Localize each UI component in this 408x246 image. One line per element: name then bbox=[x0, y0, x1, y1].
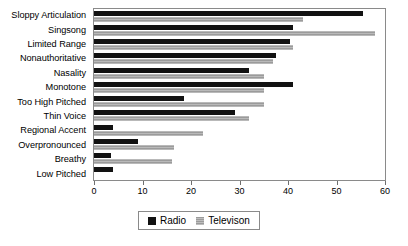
bar-radio bbox=[94, 110, 235, 115]
legend-label-television: Televison bbox=[208, 215, 250, 226]
x-tick-label: 30 bbox=[234, 186, 244, 196]
category-axis-labels: Sloppy Articulation Singsong Limited Ran… bbox=[0, 8, 89, 181]
category-label: Monotone bbox=[46, 82, 89, 92]
bar-television bbox=[94, 88, 264, 93]
category-label: Thin Voice bbox=[44, 111, 89, 121]
x-tick-mark bbox=[337, 181, 338, 185]
bar-television bbox=[94, 116, 249, 121]
x-tick-label: 10 bbox=[137, 186, 147, 196]
bar-group bbox=[94, 139, 385, 151]
bar-chart: Sloppy Articulation Singsong Limited Ran… bbox=[0, 0, 408, 246]
bar-group bbox=[94, 39, 385, 51]
bar-television bbox=[94, 159, 172, 164]
legend: Radio Televison bbox=[138, 211, 260, 230]
category-label: Regional Accent bbox=[20, 125, 89, 135]
bar-radio bbox=[94, 139, 138, 144]
category-label: Sloppy Articulation bbox=[11, 10, 89, 20]
plot-area bbox=[93, 8, 386, 181]
x-tick-mark bbox=[94, 181, 95, 185]
bar-radio bbox=[94, 82, 293, 87]
category-label: Limited Range bbox=[27, 39, 89, 49]
bar-radio bbox=[94, 39, 290, 44]
legend-label-radio: Radio bbox=[160, 215, 186, 226]
bar-radio bbox=[94, 153, 111, 158]
bar-television bbox=[94, 17, 303, 22]
bar-television bbox=[94, 102, 264, 107]
category-label: Too High Pitched bbox=[17, 97, 89, 107]
bar-group bbox=[94, 67, 385, 79]
bar-group bbox=[94, 153, 385, 165]
x-tick-mark bbox=[191, 181, 192, 185]
bar-television bbox=[94, 59, 273, 64]
x-tick-mark bbox=[143, 181, 144, 185]
x-tick-label: 0 bbox=[91, 186, 96, 196]
bar-television bbox=[94, 131, 203, 136]
bar-radio bbox=[94, 125, 113, 130]
bar-rows bbox=[94, 9, 385, 180]
x-tick-label: 60 bbox=[380, 186, 390, 196]
legend-swatch-television-icon bbox=[196, 217, 204, 225]
x-tick-label: 50 bbox=[331, 186, 341, 196]
x-tick-mark bbox=[288, 181, 289, 185]
bar-radio bbox=[94, 68, 249, 73]
legend-item-television: Televison bbox=[196, 215, 250, 226]
bar-radio bbox=[94, 25, 293, 30]
bar-group bbox=[94, 53, 385, 65]
bar-radio bbox=[94, 96, 184, 101]
x-tick-label: 20 bbox=[186, 186, 196, 196]
bar-television bbox=[94, 45, 293, 50]
x-tick-mark bbox=[385, 181, 386, 185]
bar-group bbox=[94, 110, 385, 122]
bar-television bbox=[94, 31, 375, 36]
category-label: Breathy bbox=[55, 154, 89, 164]
bar-group bbox=[94, 10, 385, 22]
x-axis: 0102030405060 bbox=[93, 181, 386, 199]
bar-radio bbox=[94, 167, 113, 172]
category-label: Nasality bbox=[54, 68, 89, 78]
bar-television bbox=[94, 145, 174, 150]
bar-group bbox=[94, 167, 385, 179]
category-label: Low Pitched bbox=[36, 169, 89, 179]
bar-group bbox=[94, 96, 385, 108]
bar-group bbox=[94, 25, 385, 37]
bar-radio bbox=[94, 11, 363, 16]
bar-group bbox=[94, 124, 385, 136]
category-label: Singsong bbox=[48, 25, 89, 35]
category-label: Nonauthoritative bbox=[20, 53, 89, 63]
category-label: Overpronounced bbox=[18, 140, 89, 150]
legend-item-radio: Radio bbox=[148, 215, 186, 226]
bar-radio bbox=[94, 53, 276, 58]
bar-television bbox=[94, 74, 264, 79]
x-tick-mark bbox=[240, 181, 241, 185]
x-tick-label: 40 bbox=[283, 186, 293, 196]
legend-swatch-radio-icon bbox=[148, 217, 156, 225]
bar-group bbox=[94, 82, 385, 94]
